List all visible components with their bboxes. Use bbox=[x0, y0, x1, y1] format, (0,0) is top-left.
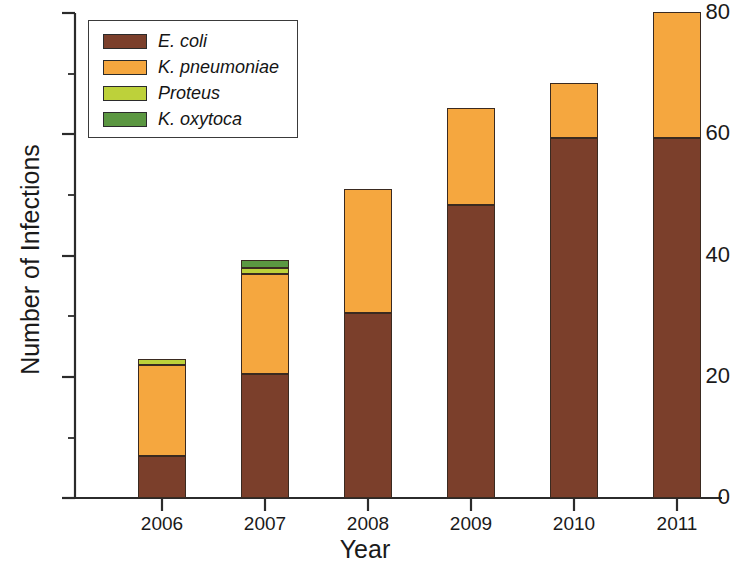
x-tick-label-2011: 2011 bbox=[632, 513, 722, 535]
bar-segment-2010-ecoli[interactable] bbox=[550, 138, 598, 498]
legend-item-ecoli[interactable]: E. coli bbox=[103, 30, 207, 52]
x-axis-title: Year bbox=[0, 535, 730, 564]
legend-swatch-icon bbox=[103, 34, 147, 49]
legend-swatch-icon bbox=[103, 60, 147, 75]
y-tick-label-60: 60 bbox=[678, 122, 730, 144]
x-tick-label-2009: 2009 bbox=[426, 513, 516, 535]
legend-label: K. oxytoca bbox=[158, 109, 242, 130]
bar-segment-2007-ecoli[interactable] bbox=[241, 374, 289, 498]
legend-swatch-icon bbox=[103, 112, 147, 127]
bar-segment-2006-proteus[interactable] bbox=[138, 359, 186, 365]
legend-label: E. coli bbox=[158, 31, 207, 52]
x-ticks bbox=[162, 498, 677, 511]
chart-legend: E. coliK. pneumoniaeProteusK. oxytoca bbox=[88, 20, 298, 138]
bar-segment-2010-kpneumoniae[interactable] bbox=[550, 83, 598, 139]
y-tick-label-0: 0 bbox=[678, 486, 730, 508]
y-tick-label-40: 40 bbox=[678, 244, 730, 266]
bar-segment-2009-kpneumoniae[interactable] bbox=[447, 108, 495, 206]
x-tick-label-2006: 2006 bbox=[117, 513, 207, 535]
y-tick-label-20: 20 bbox=[678, 365, 730, 387]
y-axis-title: Number of Infections bbox=[16, 110, 45, 410]
bar-segment-2006-ecoli[interactable] bbox=[138, 456, 186, 498]
bar-segment-2007-koxytoca[interactable] bbox=[241, 260, 289, 268]
bar-segment-2007-proteus[interactable] bbox=[241, 268, 289, 274]
x-tick-label-2007: 2007 bbox=[220, 513, 310, 535]
legend-label: K. pneumoniae bbox=[158, 57, 279, 78]
infections-stacked-bar-chart: 806040200 200620072008200920102011 Numbe… bbox=[0, 0, 730, 572]
bar-2008[interactable] bbox=[344, 0, 392, 498]
legend-swatch-icon bbox=[103, 86, 147, 101]
legend-item-proteus[interactable]: Proteus bbox=[103, 82, 220, 104]
y-major-ticks bbox=[62, 13, 75, 498]
bar-2009[interactable] bbox=[447, 0, 495, 498]
bar-segment-2007-kpneumoniae[interactable] bbox=[241, 274, 289, 374]
x-tick-label-2008: 2008 bbox=[323, 513, 413, 535]
legend-item-kpneumoniae[interactable]: K. pneumoniae bbox=[103, 56, 279, 78]
legend-item-koxytoca[interactable]: K. oxytoca bbox=[103, 108, 242, 130]
y-tick-label-80: 80 bbox=[678, 1, 730, 23]
legend-label: Proteus bbox=[158, 83, 220, 104]
bar-segment-2011-kpneumoniae[interactable] bbox=[653, 12, 701, 138]
bar-segment-2009-ecoli[interactable] bbox=[447, 205, 495, 498]
bar-segment-2008-ecoli[interactable] bbox=[344, 313, 392, 498]
bar-segment-2008-kpneumoniae[interactable] bbox=[344, 189, 392, 313]
bar-segment-2006-kpneumoniae[interactable] bbox=[138, 365, 186, 456]
bar-2010[interactable] bbox=[550, 0, 598, 498]
bar-segment-2011-ecoli[interactable] bbox=[653, 138, 701, 498]
x-tick-label-2010: 2010 bbox=[529, 513, 619, 535]
